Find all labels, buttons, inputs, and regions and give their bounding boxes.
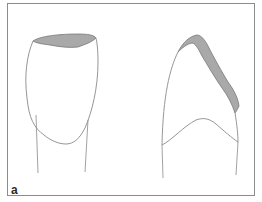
cementoenamel-junction [162,119,238,145]
root-line-right-lateral [236,142,238,175]
lingual-shading [178,35,239,113]
root-line-left [36,115,38,173]
tooth-frontal-view [26,34,98,173]
tooth-diagram [0,0,262,202]
panel-label: a [11,183,18,197]
incisal-shading [33,34,96,47]
crown-outline-lateral [162,52,178,145]
crown-outline-labial [235,113,238,142]
tooth-lateral-view [162,35,239,178]
root-line-left-lateral [162,145,163,178]
